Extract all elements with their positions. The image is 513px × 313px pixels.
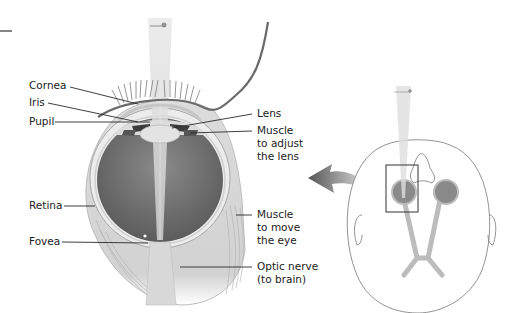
label-retina: Retina	[29, 199, 62, 212]
eye-cross-section	[86, 18, 268, 305]
fovea-dot	[143, 234, 146, 237]
leader-cornea	[70, 87, 138, 104]
label-pupil: Pupil	[29, 115, 54, 128]
head-top-view	[347, 86, 496, 313]
label-cornea: Cornea	[29, 79, 66, 92]
label-muscle-lens: Muscle to adjust the lens	[257, 124, 303, 163]
label-optic-nerve: Optic nerve (to brain)	[257, 260, 318, 286]
eye-right-small	[434, 180, 458, 204]
ciliary-left	[122, 130, 136, 136]
label-fovea: Fovea	[29, 235, 60, 248]
label-lens: Lens	[257, 107, 281, 120]
label-muscle-eye: Muscle to move the eye	[257, 208, 300, 247]
label-iris: Iris	[29, 96, 45, 109]
